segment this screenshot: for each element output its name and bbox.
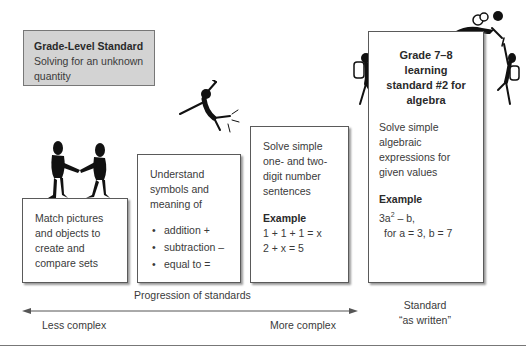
symbol-item-subtraction: subtraction – bbox=[150, 239, 228, 256]
standard-box-4: Grade 7–8 learning standard #2 for algeb… bbox=[368, 31, 484, 283]
box4-expression: 3a2 – b, bbox=[379, 207, 473, 226]
grade-level-text: Solving for an unknown quantity bbox=[34, 54, 144, 84]
box2-text: Understand symbols and meaning of bbox=[150, 167, 228, 212]
symbol-item-equal: equal to = bbox=[150, 256, 228, 273]
progression-label: Progression of standards bbox=[134, 289, 251, 301]
expression-base: 3a bbox=[379, 212, 391, 224]
progression-arrow-icon bbox=[22, 303, 358, 319]
less-complex-label: Less complex bbox=[42, 319, 106, 331]
expression-rest: – b, bbox=[395, 212, 415, 224]
standard-label: Standard “as written” bbox=[392, 298, 458, 328]
handshake-figures-icon bbox=[44, 140, 116, 200]
box3-example-label: Example bbox=[263, 211, 336, 226]
box4-example-label: Example bbox=[379, 192, 473, 207]
standard-box-1: Match pictures and objects to create and… bbox=[22, 198, 128, 283]
box1-text: Match pictures and objects to create and… bbox=[35, 211, 115, 271]
box3-example-2: 2 + x = 5 bbox=[263, 241, 336, 256]
standard-box-2: Understand symbols and meaning of additi… bbox=[137, 154, 241, 283]
standard-box-3: Solve simple one- and two-digit number s… bbox=[250, 126, 349, 283]
bottom-divider bbox=[0, 345, 526, 346]
box3-text: Solve simple one- and two-digit number s… bbox=[263, 139, 336, 199]
box3-example-1: 1 + 1 + 1 = x bbox=[263, 226, 336, 241]
standard-label-line2: “as written” bbox=[392, 313, 458, 328]
box4-text: Solve simple algebraic expressions for g… bbox=[379, 120, 473, 180]
more-complex-label: More complex bbox=[270, 319, 336, 331]
symbol-list: addition + subtraction – equal to = bbox=[150, 222, 228, 273]
standard-label-line1: Standard bbox=[392, 298, 458, 313]
box4-expression-values: for a = 3, b = 7 bbox=[379, 226, 473, 241]
box4-title: Grade 7–8 learning standard #2 for algeb… bbox=[385, 48, 467, 108]
grade-level-title: Grade-Level Standard bbox=[34, 39, 144, 54]
jumping-figure-icon bbox=[176, 80, 246, 136]
grade-level-standard-box: Grade-Level Standard Solving for an unkn… bbox=[23, 30, 155, 86]
symbol-item-addition: addition + bbox=[150, 222, 228, 239]
